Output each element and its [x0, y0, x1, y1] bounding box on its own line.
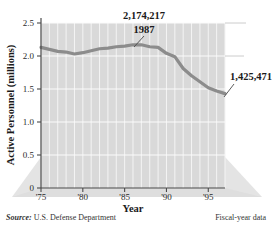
source-label: Source: [6, 213, 32, 222]
y-tick-label: 1.5 [23, 84, 35, 94]
personnel-line-chart: 00.51.01.52.02.5 '75'80'85'90'95 Active … [0, 0, 272, 232]
y-axis-title: Active Personnel (millions) [5, 44, 17, 165]
y-tick-label: 0.5 [23, 150, 35, 160]
y-tick-label: 1.0 [23, 117, 35, 127]
y-tick-label: 0 [30, 183, 35, 193]
annotation-last-value: 1,425,471 [230, 71, 272, 82]
x-tick-label: '95 [203, 192, 214, 202]
y-tick-label: 2.0 [23, 51, 35, 61]
annotation-peak-value: 2,174,217 [123, 10, 165, 21]
extended-gridlines [225, 23, 246, 56]
source-note: Source: U.S. Defense Department [6, 213, 117, 222]
platform-front-face [12, 188, 262, 197]
x-tick-label: '85 [119, 192, 130, 202]
source-text: U.S. Defense Department [34, 213, 117, 222]
fiscal-year-note: Fiscal-year data [215, 213, 266, 222]
chart-container: 00.51.01.52.02.5 '75'80'85'90'95 Active … [0, 0, 272, 232]
x-tick-label: '90 [161, 192, 172, 202]
x-tick-label: '80 [78, 192, 89, 202]
x-tick-label: '75 [36, 192, 47, 202]
annotation-peak-year: 1987 [134, 24, 155, 35]
x-axis-title: Year [123, 203, 144, 214]
y-tick-label: 2.5 [23, 18, 35, 28]
